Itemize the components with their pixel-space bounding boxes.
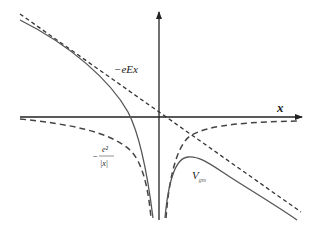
field-potential-line bbox=[20, 14, 301, 212]
coulomb-potential-curve-left bbox=[20, 119, 151, 218]
total-potential-label: Vgm bbox=[192, 169, 207, 183]
total-potential-curve-left bbox=[20, 20, 153, 218]
field-potential-label: −eEx bbox=[114, 63, 138, 75]
potential-diagram: −eEx x − e² |x| Vgm bbox=[0, 0, 314, 239]
total-potential-subscript: gm bbox=[199, 177, 207, 183]
total-potential-curve-right bbox=[165, 157, 297, 220]
coulomb-minus-label: − bbox=[92, 151, 98, 161]
coulomb-denominator-label: |x| bbox=[100, 159, 108, 168]
coulomb-numerator-label: e² bbox=[102, 145, 109, 154]
x-axis-label: x bbox=[276, 100, 284, 115]
coulomb-potential-curve-right bbox=[166, 121, 301, 218]
